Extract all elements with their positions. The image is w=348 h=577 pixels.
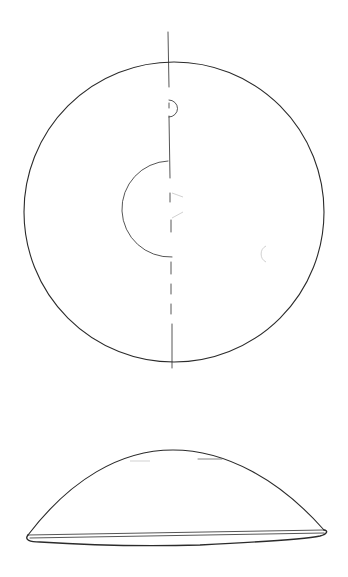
faint-center-mark [172,212,183,218]
base-top-edge [28,530,324,535]
side-view [27,450,327,546]
dome-profile [28,450,324,535]
outer-circle [24,62,324,362]
technical-drawing [0,0,348,577]
faint-center-mark [172,193,183,197]
center-axis-segment [169,116,170,178]
inner-semicircle [122,161,172,257]
base-middle-line [30,533,324,538]
center-axis-segment [168,32,169,87]
small-notch-arc [169,100,178,117]
top-view [24,32,324,368]
faint-side-arc [261,246,266,262]
